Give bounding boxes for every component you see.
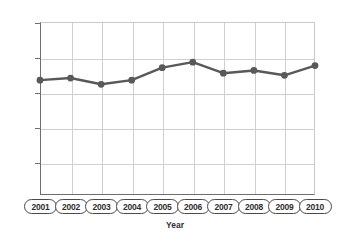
x-tick-pill-2006: 2006 xyxy=(177,199,210,214)
line-chart: 25% 20% 15% 10% 5% 0 2001 2002 2003 xyxy=(0,0,350,242)
gridline-vertical xyxy=(194,23,195,194)
gridline-vertical xyxy=(133,23,134,194)
x-tick-pill-2004: 2004 xyxy=(116,199,149,214)
x-axis-labels: 2001 2002 2003 2004 2005 2006 2007 2008 … xyxy=(0,199,350,216)
x-tick-pill-2009: 2009 xyxy=(268,199,301,214)
x-tick-pill-2005: 2005 xyxy=(146,199,179,214)
gridline-vertical xyxy=(163,23,164,194)
x-tick-pill-2002: 2002 xyxy=(55,199,88,214)
x-tick-pill-2008: 2008 xyxy=(238,199,271,214)
gridline-vertical xyxy=(102,23,103,194)
x-axis-title: Year xyxy=(0,220,350,230)
gridline-vertical xyxy=(72,23,73,194)
x-tick-pill-2003: 2003 xyxy=(85,199,118,214)
x-tick-pill-2001: 2001 xyxy=(24,199,57,214)
gridline-vertical xyxy=(285,23,286,194)
gridline-vertical xyxy=(255,23,256,194)
gridline-horizontal xyxy=(41,164,314,165)
gridline-vertical xyxy=(224,23,225,194)
plot-area xyxy=(40,22,315,195)
x-tick-pill-2007: 2007 xyxy=(207,199,240,214)
gridline-horizontal xyxy=(41,94,314,95)
x-tick-pill-2010: 2010 xyxy=(299,199,332,214)
gridline-horizontal xyxy=(41,129,314,130)
gridline-horizontal xyxy=(41,59,314,60)
